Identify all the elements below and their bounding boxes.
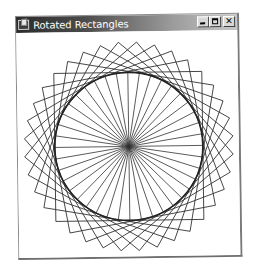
spoke-line (129, 146, 189, 190)
rotated-rectangles-drawing (16, 30, 240, 259)
spoke-line (129, 146, 130, 220)
window-title: Rotated Rectangles (33, 18, 129, 30)
spoke-line (69, 146, 129, 190)
spoke-line (55, 146, 129, 147)
title-buttons: ✕ (197, 16, 235, 28)
app-icon[interactable] (18, 19, 30, 31)
spoke-line (85, 87, 129, 147)
spoke-line (129, 145, 203, 146)
spoke-line (128, 102, 188, 146)
spoke-line (85, 146, 129, 206)
close-icon: ✕ (225, 16, 233, 26)
maximize-icon (212, 18, 218, 24)
close-button[interactable]: ✕ (223, 16, 235, 27)
app-window: Rotated Rectangles ✕ (15, 13, 242, 260)
minimize-button[interactable] (197, 16, 209, 27)
drawing-canvas (16, 30, 240, 258)
minimize-icon (200, 22, 205, 24)
spoke-line (128, 72, 129, 146)
spoke-line (68, 103, 128, 147)
spoke-line (128, 86, 172, 146)
maximize-button[interactable] (209, 16, 221, 27)
spoke-line (129, 146, 173, 206)
screen: Rotated Rectangles ✕ (0, 0, 257, 269)
